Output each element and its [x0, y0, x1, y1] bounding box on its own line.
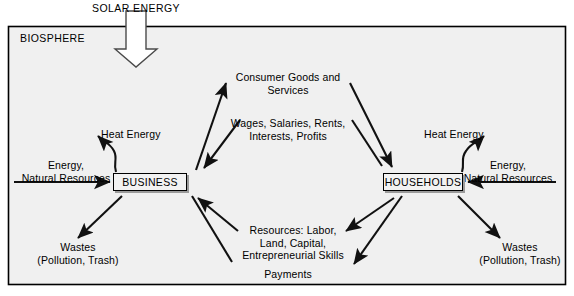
label-wastes-right: Wastes (Pollution, Trash) [479, 241, 560, 266]
biosphere-label: BIOSPHERE [20, 32, 85, 45]
label-consumer-goods: Consumer Goods and Services [236, 71, 341, 96]
circular-flow-diagram: SOLAR ENERGY BIOSPHERE Consumer Goods an… [0, 0, 574, 296]
label-heat-energy-right: Heat Energy [424, 128, 484, 141]
sector-box-households[interactable]: HOUSEHOLDS [383, 173, 463, 191]
sector-box-business[interactable]: BUSINESS [113, 173, 187, 191]
label-wages: Wages, Salaries, Rents, Interests, Profi… [231, 117, 346, 142]
label-resources: Resources: Labor, Land, Capital, Entrepr… [242, 224, 344, 262]
label-wastes-left: Wastes (Pollution, Trash) [37, 241, 118, 266]
label-heat-energy-left: Heat Energy [101, 128, 161, 141]
sector-label-business: BUSINESS [122, 176, 178, 188]
label-energy-inputs-right: Energy, Natural Resources [464, 159, 553, 184]
label-energy-inputs-left: Energy, Natural Resources [22, 159, 111, 184]
sector-label-households: HOUSEHOLDS [385, 176, 462, 188]
label-payments: Payments [264, 268, 312, 281]
solar-energy-label: SOLAR ENERGY [92, 2, 180, 15]
